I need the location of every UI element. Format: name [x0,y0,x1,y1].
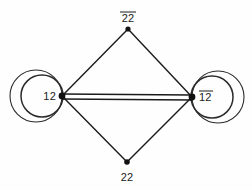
node-label-bottom-group: 22 [121,171,134,183]
diagram-canvas: 22 12 12 22 [0,0,252,190]
edge-left-bottom [62,96,127,162]
edge-bottom-right [127,97,192,162]
edge-left-top [62,29,128,96]
node-label-right: 12 [199,91,212,103]
edge-left-right-lower [62,99,192,100]
graph-diagram: 22 12 12 22 [0,0,252,190]
vertex-dot-bottom[interactable] [124,159,130,165]
edge-top-right [128,29,192,97]
vertex-dot-top[interactable] [125,26,130,31]
self-loop-inner-left [21,75,63,117]
node-label-top: 22 [122,12,135,24]
node-label-left: 12 [43,90,56,102]
self-loop-inner-right [191,76,233,118]
node-label-right-group: 12 [199,91,213,103]
node-label-top-group: 22 [120,12,136,24]
node-label-bottom: 22 [121,171,134,183]
edge-left-right-double [62,94,192,100]
node-label-left-group: 12 [43,90,56,102]
edge-left-right-upper [62,94,192,95]
vertex-dot-right[interactable] [189,94,196,101]
vertex-dot-left[interactable] [59,93,66,100]
